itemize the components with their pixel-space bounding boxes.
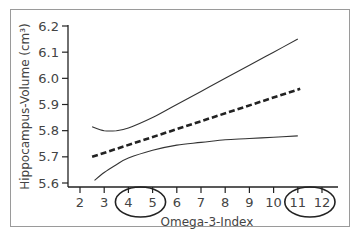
chart: 5.65.75.85.96.06.16.2 23456789101112 Ome…: [0, 0, 360, 246]
upper-confidence-bound-line: [92, 39, 298, 131]
y-tick-label: 5.8: [38, 123, 59, 138]
series-group: [92, 39, 300, 180]
y-axis-title: Hippocampus-Volume (cm³): [18, 23, 32, 190]
x-tick-label: 4: [124, 195, 132, 210]
x-tick-label: 12: [314, 195, 331, 210]
x-tick-label: 5: [148, 195, 156, 210]
x-tick-label: 9: [245, 195, 253, 210]
x-tick-label: 6: [173, 195, 181, 210]
y-tick-label: 6.2: [38, 19, 59, 34]
y-tick-label: 5.9: [38, 97, 59, 112]
x-tick-label: 2: [76, 195, 84, 210]
x-ticks: 23456789101112: [76, 187, 330, 210]
lower-confidence-bound-line: [95, 136, 298, 181]
x-axis-title: Omega-3-Index: [161, 215, 254, 229]
circled-range-4-5-ellipse: [115, 187, 165, 217]
y-tick-label: 6.0: [38, 71, 59, 86]
x-tick-label: 7: [197, 195, 205, 210]
y-tick-label: 5.6: [38, 176, 59, 191]
x-tick-label: 11: [290, 195, 307, 210]
x-tick-label: 3: [100, 195, 108, 210]
x-tick-label: 10: [265, 195, 282, 210]
x-tick-label: 8: [221, 195, 229, 210]
y-ticks: 5.65.75.85.96.06.16.2: [38, 19, 68, 191]
y-tick-label: 6.1: [38, 45, 59, 60]
y-tick-label: 5.7: [38, 149, 59, 164]
regression-fit-line: [92, 89, 300, 157]
axes: [68, 25, 338, 187]
